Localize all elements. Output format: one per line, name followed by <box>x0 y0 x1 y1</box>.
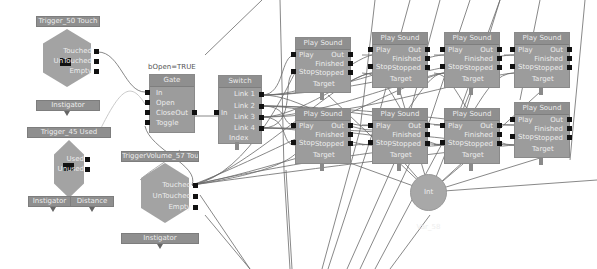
play-sound-output-pin-stopped[interactable] <box>425 141 430 146</box>
output-pin-touched[interactable] <box>193 183 198 188</box>
input-label-play: Play <box>448 122 463 131</box>
play-sound-output-pin-finished[interactable] <box>348 132 353 137</box>
variable-link-target[interactable]: Target <box>390 151 412 159</box>
output-pin-unused[interactable] <box>85 167 90 172</box>
play-sound-output-pin-stopped[interactable] <box>497 65 502 70</box>
play-sound-node[interactable]: Play SoundPlayStopOutFinishedStoppedTarg… <box>295 108 351 164</box>
output-pin-empty[interactable] <box>193 205 198 210</box>
switch-input-pin-in[interactable] <box>214 110 219 115</box>
play-sound-output-pin-finished[interactable] <box>567 56 572 61</box>
output-pin-touched[interactable] <box>94 49 99 54</box>
play-sound-input-pin-play[interactable] <box>368 123 373 128</box>
variable-link-instigator[interactable]: Instigator <box>121 233 199 244</box>
variable-link-target[interactable]: Target <box>390 75 412 83</box>
switch-output-pin-link-1[interactable] <box>259 92 264 97</box>
gate-input-pin-close[interactable] <box>145 110 150 115</box>
play-sound-target-link-stub[interactable] <box>539 157 543 165</box>
variable-link-index[interactable]: Index <box>229 134 248 142</box>
variable-link-target[interactable]: Target <box>313 80 335 88</box>
switch-output-pin-link-4[interactable] <box>259 126 264 131</box>
play-sound-input-pin-stop[interactable] <box>368 64 373 69</box>
gate-output-pin-out[interactable] <box>192 110 197 115</box>
play-sound-output-pin-stopped[interactable] <box>567 65 572 70</box>
play-sound-output-pin-stopped[interactable] <box>348 70 353 75</box>
play-sound-input-pin-stop[interactable] <box>510 64 515 69</box>
play-sound-output-pin-out[interactable] <box>425 123 430 128</box>
variable-link-target[interactable]: Target <box>462 151 484 159</box>
variable-link-instigator[interactable]: Instigator <box>36 100 100 111</box>
play-sound-node[interactable]: Play SoundPlayStopOutFinishedStoppedTarg… <box>372 108 428 164</box>
gate-input-pin-open[interactable] <box>145 100 150 105</box>
node-title: Play Sound <box>445 109 499 121</box>
switch-node[interactable]: Switch In Link 1 Link 2 Link 3 Link 4 In… <box>218 75 262 144</box>
play-sound-output-pin-out[interactable] <box>348 123 353 128</box>
play-sound-output-pin-stopped[interactable] <box>348 141 353 146</box>
play-sound-target-link-stub[interactable] <box>469 163 473 171</box>
play-sound-input-pin-stop[interactable] <box>440 140 445 145</box>
gate-input-pin-in[interactable] <box>145 90 150 95</box>
play-sound-output-pin-finished[interactable] <box>567 126 572 131</box>
variable-link-instigator[interactable]: Instigator <box>28 196 71 207</box>
play-sound-node[interactable]: Play SoundPlayStopOutFinishedStoppedTarg… <box>514 32 570 88</box>
play-sound-output-pin-stopped[interactable] <box>425 65 430 70</box>
play-sound-input-pin-play[interactable] <box>368 47 373 52</box>
play-sound-input-pin-stop[interactable] <box>368 140 373 145</box>
play-sound-output-pin-finished[interactable] <box>497 56 502 61</box>
play-sound-input-pin-play[interactable] <box>291 123 296 128</box>
play-sound-output-pin-finished[interactable] <box>425 132 430 137</box>
play-sound-node[interactable]: Play SoundPlayStopOutFinishedStoppedTarg… <box>444 32 500 88</box>
play-sound-target-link-stub[interactable] <box>397 163 401 171</box>
input-label-play: Play <box>518 46 533 55</box>
input-label-stop: Stop <box>299 68 315 77</box>
play-sound-input-pin-stop[interactable] <box>291 69 296 74</box>
play-sound-input-pin-play[interactable] <box>440 47 445 52</box>
node-title: Play Sound <box>373 33 427 45</box>
input-label-in: In <box>221 109 228 118</box>
output-pin-empty[interactable] <box>94 69 99 74</box>
variable-link-target[interactable]: Target <box>462 75 484 83</box>
play-sound-input-pin-stop[interactable] <box>510 134 515 139</box>
play-sound-target-link-stub[interactable] <box>320 92 324 100</box>
gate-node[interactable]: Gate In Open Close Toggle Out <box>149 74 195 133</box>
play-sound-node[interactable]: Play SoundPlayStopOutFinishedStoppedTarg… <box>514 102 570 158</box>
variable-link-target[interactable]: Target <box>532 145 554 153</box>
play-sound-node[interactable]: Play SoundPlayStopOutFinishedStoppedTarg… <box>295 37 351 93</box>
output-pin-used[interactable] <box>85 157 90 162</box>
play-sound-output-pin-stopped[interactable] <box>567 135 572 140</box>
switch-output-pin-link-2[interactable] <box>259 104 264 109</box>
play-sound-output-pin-finished[interactable] <box>425 56 430 61</box>
switch-output-pin-link-3[interactable] <box>259 115 264 120</box>
play-sound-input-pin-play[interactable] <box>510 117 515 122</box>
event-triggervolume-touch[interactable]: TriggerVolume_57 Touch Touched UnTouched… <box>121 151 201 246</box>
play-sound-node[interactable]: Play SoundPlayStopOutFinishedStoppedTarg… <box>372 32 428 88</box>
output-pin-untouched[interactable] <box>193 194 198 199</box>
play-sound-output-pin-out[interactable] <box>348 52 353 57</box>
variable-link-target[interactable]: Target <box>532 75 554 83</box>
play-sound-target-link-stub[interactable] <box>469 87 473 95</box>
play-sound-output-pin-out[interactable] <box>567 117 572 122</box>
variable-link-distance[interactable]: Distance <box>70 196 114 207</box>
event-trigger-touch[interactable]: Trigger_50 Touch Touched UnTouched Empty… <box>36 16 100 116</box>
play-sound-target-link-stub[interactable] <box>397 87 401 95</box>
play-sound-output-pin-finished[interactable] <box>497 132 502 137</box>
play-sound-output-pin-out[interactable] <box>497 47 502 52</box>
play-sound-target-link-stub[interactable] <box>320 163 324 171</box>
gate-input-pin-toggle[interactable] <box>145 120 150 125</box>
output-pin-untouched[interactable] <box>94 59 99 64</box>
play-sound-output-pin-out[interactable] <box>567 47 572 52</box>
play-sound-output-pin-out[interactable] <box>425 47 430 52</box>
play-sound-target-link-stub[interactable] <box>539 87 543 95</box>
int-variable-node[interactable]: Int Var_58 <box>410 174 447 211</box>
play-sound-node[interactable]: Play SoundPlayStopOutFinishedStoppedTarg… <box>444 108 500 164</box>
play-sound-input-pin-stop[interactable] <box>440 64 445 69</box>
variable-link-target[interactable]: Target <box>313 151 335 159</box>
play-sound-input-pin-play[interactable] <box>510 47 515 52</box>
play-sound-output-pin-stopped[interactable] <box>497 141 502 146</box>
play-sound-output-pin-finished[interactable] <box>348 61 353 66</box>
play-sound-input-pin-play[interactable] <box>440 123 445 128</box>
play-sound-output-pin-out[interactable] <box>497 123 502 128</box>
output-label-stopped: Stopped <box>315 140 344 149</box>
play-sound-input-pin-play[interactable] <box>291 52 296 57</box>
play-sound-input-pin-stop[interactable] <box>291 140 296 145</box>
switch-index-link-stub[interactable] <box>235 142 239 150</box>
